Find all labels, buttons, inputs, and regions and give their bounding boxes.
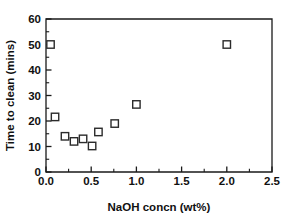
data-point-marker xyxy=(70,138,77,145)
data-point-marker xyxy=(133,101,140,108)
x-tick-label: 2.0 xyxy=(219,175,235,187)
y-tick-label: 10 xyxy=(28,141,41,153)
data-point-marker xyxy=(47,41,54,48)
data-point-marker xyxy=(51,113,58,120)
chart-svg: 0.00.51.01.52.02.5 0102030405060 NaOH co… xyxy=(0,0,293,217)
scatter-chart: 0.00.51.01.52.02.5 0102030405060 NaOH co… xyxy=(0,0,293,217)
y-tick-label: 50 xyxy=(28,39,41,51)
x-tick-label: 2.5 xyxy=(264,175,281,187)
y-axis-tick-labels: 0102030405060 xyxy=(28,13,41,178)
y-tick-label: 20 xyxy=(28,115,41,127)
axis-frame xyxy=(46,19,272,172)
y-tick-label: 0 xyxy=(35,166,41,178)
y-tick-label: 40 xyxy=(28,64,41,76)
x-axis-tick-labels: 0.00.51.01.52.02.5 xyxy=(38,175,281,187)
x-axis-label: NaOH concn (wt%) xyxy=(108,201,211,213)
data-point-marker xyxy=(111,120,118,127)
y-axis-label: Time to clean (mins) xyxy=(4,40,16,151)
y-tick-label: 30 xyxy=(28,90,41,102)
data-point-marker xyxy=(79,135,86,142)
x-tick-label: 1.5 xyxy=(174,175,191,187)
data-point-marker xyxy=(88,142,95,149)
data-point-marker xyxy=(223,41,230,48)
data-point-marker xyxy=(95,128,102,135)
data-point-marker xyxy=(61,133,68,140)
data-point-series xyxy=(47,41,231,150)
y-tick-label: 60 xyxy=(28,13,41,25)
plot-frame xyxy=(46,19,272,172)
x-tick-label: 0.5 xyxy=(83,175,100,187)
x-tick-label: 1.0 xyxy=(128,175,144,187)
